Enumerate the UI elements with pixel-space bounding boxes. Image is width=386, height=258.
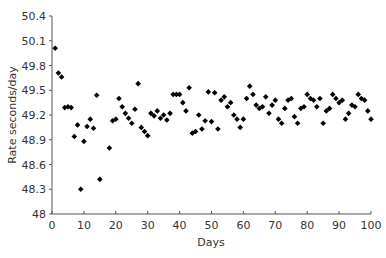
data-points bbox=[52, 45, 373, 192]
data-point bbox=[228, 100, 234, 106]
data-point bbox=[145, 133, 151, 139]
y-tick-label: 49.8 bbox=[22, 60, 47, 73]
data-point bbox=[97, 177, 103, 183]
data-point bbox=[317, 96, 323, 102]
data-point bbox=[330, 92, 336, 98]
data-point bbox=[273, 97, 279, 103]
data-point bbox=[84, 124, 90, 130]
data-point bbox=[266, 111, 272, 117]
data-point bbox=[107, 145, 113, 151]
data-point bbox=[320, 120, 326, 126]
axes: 01020304050607080901004848.348.648.949.2… bbox=[22, 10, 382, 232]
data-point bbox=[116, 96, 122, 102]
x-tick-label: 20 bbox=[109, 219, 123, 232]
data-point bbox=[241, 116, 247, 122]
x-tick-label: 100 bbox=[361, 219, 382, 232]
y-tick-label: 48.3 bbox=[22, 183, 47, 196]
x-tick-label: 0 bbox=[49, 219, 56, 232]
data-point bbox=[237, 125, 243, 131]
data-point bbox=[94, 92, 100, 98]
x-axis-label: Days bbox=[197, 236, 225, 249]
y-tick-label: 50.1 bbox=[22, 35, 47, 48]
data-point bbox=[167, 111, 173, 117]
y-tick-label: 48.9 bbox=[22, 134, 47, 147]
data-point bbox=[209, 119, 215, 125]
data-point bbox=[231, 112, 237, 118]
data-point bbox=[343, 116, 349, 122]
data-point bbox=[212, 90, 218, 96]
data-point bbox=[59, 74, 65, 80]
data-point bbox=[75, 122, 81, 128]
data-point bbox=[142, 129, 148, 135]
data-point bbox=[126, 116, 132, 122]
data-point bbox=[304, 92, 310, 98]
data-point bbox=[123, 111, 129, 117]
data-point bbox=[81, 139, 87, 145]
y-tick-label: 50.4 bbox=[22, 10, 47, 23]
data-point bbox=[186, 85, 192, 91]
data-point bbox=[132, 106, 138, 112]
data-point bbox=[129, 120, 135, 126]
data-point bbox=[139, 125, 145, 131]
data-point bbox=[295, 120, 301, 126]
data-point bbox=[234, 116, 240, 122]
data-point bbox=[244, 96, 250, 102]
x-tick-label: 50 bbox=[205, 219, 219, 232]
data-point bbox=[250, 92, 256, 98]
y-tick-label: 48 bbox=[32, 208, 46, 221]
data-point bbox=[276, 116, 282, 122]
data-point bbox=[225, 104, 231, 110]
x-tick-label: 30 bbox=[141, 219, 155, 232]
data-point bbox=[215, 126, 221, 132]
data-point bbox=[154, 108, 160, 114]
data-point bbox=[314, 104, 320, 110]
data-point bbox=[269, 102, 275, 108]
data-point bbox=[78, 186, 84, 192]
y-tick-label: 49.5 bbox=[22, 84, 47, 97]
x-tick-label: 60 bbox=[236, 219, 250, 232]
y-tick-label: 48.6 bbox=[22, 159, 47, 172]
data-point bbox=[72, 134, 78, 140]
x-tick-label: 70 bbox=[268, 219, 282, 232]
data-point bbox=[52, 45, 58, 51]
data-point bbox=[56, 70, 62, 76]
data-point bbox=[91, 125, 97, 131]
data-point bbox=[199, 126, 205, 132]
data-point bbox=[365, 108, 371, 114]
data-point bbox=[247, 83, 253, 89]
data-point bbox=[368, 116, 374, 122]
y-tick-label: 49.2 bbox=[22, 109, 47, 122]
data-point bbox=[333, 96, 339, 102]
x-tick-label: 90 bbox=[332, 219, 346, 232]
data-point bbox=[282, 106, 288, 112]
data-point bbox=[87, 116, 93, 122]
data-point bbox=[183, 108, 189, 114]
x-tick-label: 40 bbox=[173, 219, 187, 232]
data-point bbox=[355, 92, 361, 98]
data-point bbox=[164, 117, 170, 123]
x-tick-label: 80 bbox=[300, 219, 314, 232]
data-point bbox=[292, 114, 298, 120]
data-point bbox=[279, 120, 285, 126]
data-point bbox=[119, 104, 125, 110]
data-point bbox=[202, 118, 208, 124]
data-point bbox=[346, 111, 352, 117]
data-point bbox=[180, 100, 186, 106]
x-tick-label: 10 bbox=[77, 219, 91, 232]
scatter-chart: 01020304050607080901004848.348.648.949.2… bbox=[0, 0, 386, 258]
data-point bbox=[206, 89, 212, 95]
data-point bbox=[135, 81, 141, 87]
data-point bbox=[177, 92, 183, 98]
data-point bbox=[196, 112, 202, 118]
data-point bbox=[263, 94, 269, 100]
y-axis-label: Rate seconds/day bbox=[6, 66, 19, 164]
